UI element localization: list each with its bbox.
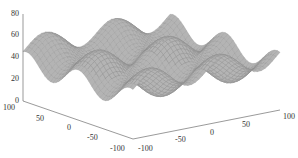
z-tick: 20 (11, 74, 19, 83)
y-tick: 0 (67, 123, 71, 132)
surface-plot: 0 20 40 60 80 100 50 0 -50 -100 -100 -50… (0, 0, 298, 158)
y-tick-labels: 100 50 0 -50 -100 (3, 103, 125, 153)
x-tick-labels: -100 -50 0 50 100 (138, 112, 295, 153)
z-tick-labels: 0 20 40 60 80 (11, 9, 19, 105)
y-tick: 100 (3, 103, 15, 112)
y-tick: 50 (36, 114, 44, 123)
z-tick: 0 (15, 96, 19, 105)
x-tick: 0 (210, 128, 214, 137)
y-tick: -100 (110, 144, 125, 153)
z-tick: 60 (11, 30, 19, 39)
x-tick: -50 (175, 135, 186, 144)
x-tick: -100 (138, 144, 153, 153)
x-tick: 50 (242, 120, 250, 129)
x-tick: 100 (283, 112, 295, 121)
z-tick: 80 (11, 9, 19, 18)
x-axis-line (133, 110, 280, 139)
z-tick: 40 (11, 52, 19, 61)
y-tick: -50 (87, 133, 98, 142)
surface-mesh (23, 14, 280, 100)
